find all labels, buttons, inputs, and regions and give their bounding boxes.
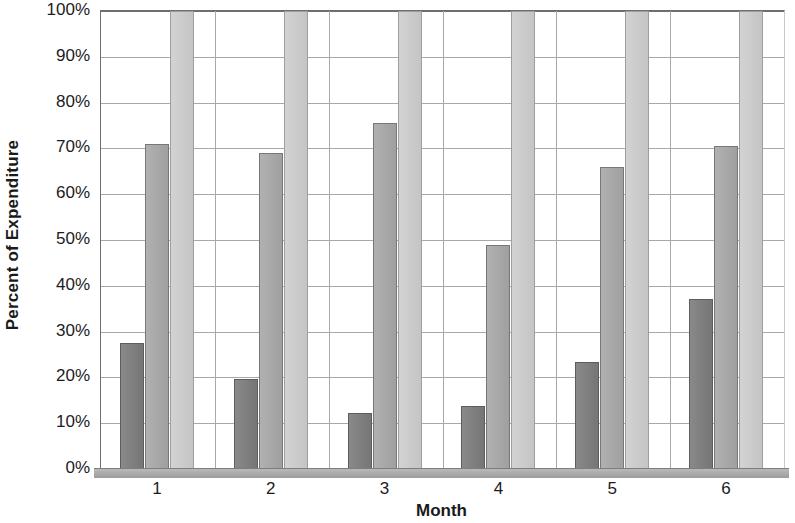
x-axis-tick-label: 2 <box>266 479 275 499</box>
y-axis-title: Percent of Expenditure <box>0 0 26 470</box>
bar <box>120 343 144 469</box>
y-axis-tick-label: 20% <box>56 366 90 386</box>
bar <box>398 11 422 469</box>
bars-layer <box>100 10 783 469</box>
bar-group <box>234 10 308 469</box>
bar <box>600 167 624 469</box>
bar <box>348 413 372 469</box>
bar <box>625 11 649 469</box>
y-axis-tick-label: 90% <box>56 46 90 66</box>
bar <box>284 11 308 469</box>
x-axis-tick-label: 1 <box>152 479 161 499</box>
bar <box>259 153 283 469</box>
y-axis-title-text: Percent of Expenditure <box>3 140 23 331</box>
x-axis-tick-label: 6 <box>721 479 730 499</box>
chart-container: Percent of Expenditure 0%10%20%30%40%50%… <box>0 0 795 523</box>
x-axis-tick-label: 3 <box>380 479 389 499</box>
y-axis-tick-labels: 0%10%20%30%40%50%60%70%80%90%100% <box>26 0 96 480</box>
y-axis-tick-label: 50% <box>56 229 90 249</box>
bar-group <box>689 10 763 469</box>
y-axis-tick-label: 70% <box>56 137 90 157</box>
bar-group <box>348 10 422 469</box>
y-axis-tick-label: 0% <box>65 458 90 478</box>
bar <box>739 11 763 469</box>
bar-group <box>120 10 194 469</box>
x-axis-tick-label: 4 <box>494 479 503 499</box>
x-axis-title: Month <box>100 501 783 521</box>
bar <box>575 362 599 469</box>
bar-group <box>461 10 535 469</box>
bar <box>234 379 258 469</box>
bar <box>170 11 194 469</box>
bar <box>714 146 738 469</box>
x-axis-tick-label: 5 <box>608 479 617 499</box>
y-axis-tick-label: 30% <box>56 321 90 341</box>
bar <box>689 299 713 469</box>
bar-group <box>575 10 649 469</box>
bar <box>145 144 169 469</box>
bar <box>511 11 535 469</box>
y-axis-tick-label: 100% <box>47 0 90 20</box>
y-axis-tick-label: 10% <box>56 412 90 432</box>
bar <box>373 123 397 469</box>
y-axis-tick-label: 40% <box>56 275 90 295</box>
y-axis-tick-label: 60% <box>56 183 90 203</box>
bar <box>486 245 510 469</box>
bar <box>461 406 485 469</box>
y-axis-tick-label: 80% <box>56 92 90 112</box>
x-axis-baseline <box>94 468 789 478</box>
